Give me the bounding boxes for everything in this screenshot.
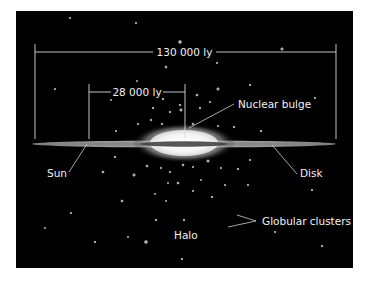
sun-distance-label: 28 000 ly [112,86,161,98]
nuclear-bulge [132,123,236,163]
galaxy-diagram: 130 000 ly 28 000 ly Nuclear bulge Sun D… [0,0,368,290]
diameter-label: 130 000 ly [157,46,213,58]
sun-label: Sun [47,167,67,179]
nuclear-bulge-label: Nuclear bulge [238,98,311,110]
halo-label: Halo [174,229,198,241]
globular-clusters-label: Globular clusters [262,215,351,227]
disk-label: Disk [300,167,323,179]
